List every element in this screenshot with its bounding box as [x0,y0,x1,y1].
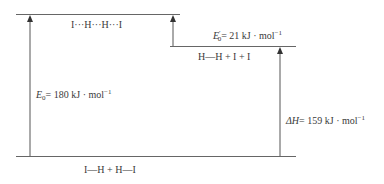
e0-label: E0= 180 kJ · mol−1 [36,89,111,101]
e0-prime-arrow [170,15,176,46]
e0-prime-label: E′0= 21 kJ · mol−1 [213,30,282,42]
e0-exponent: −1 [104,88,111,96]
delta-h-label: ΔH= 159 kJ · mol−1 [286,115,365,127]
delta-h-exponent: −1 [358,114,365,122]
intermediate-label: H—H + I + I [198,51,250,63]
e0-arrow [27,15,33,156]
e0-prime-value-text: = 21 kJ · mol [221,30,274,41]
reactants-label: I—H + H—I [84,164,136,176]
delta-h-symbol: ΔH [286,115,299,126]
delta-h-value-text: = 159 kJ · mol [299,115,357,126]
e0-value-text: = 180 kJ · mol [46,89,104,100]
delta-h-arrow [277,47,283,156]
transition-state-label: I···H···H···I [71,19,122,31]
e0-prime-exponent: −1 [275,29,282,37]
